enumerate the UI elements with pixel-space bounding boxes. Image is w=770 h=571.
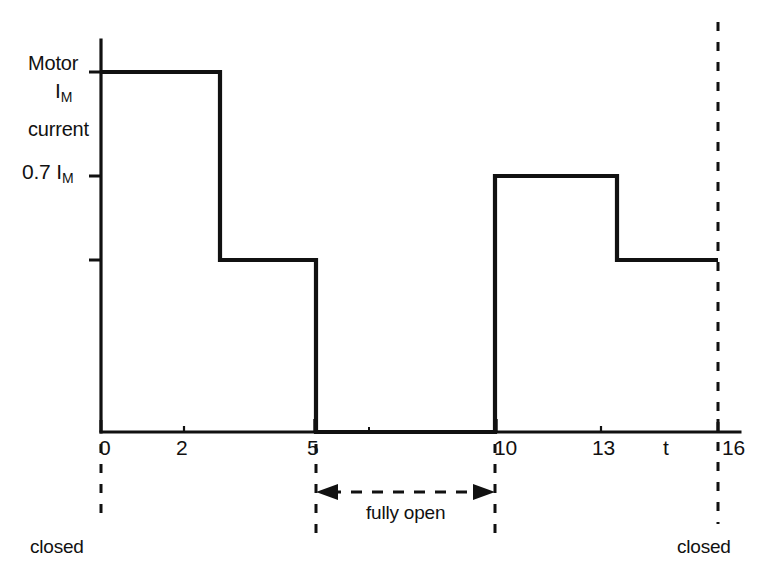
- y-tick-label-07im: 0.7 IM: [22, 160, 74, 186]
- motor-current-waveform: [101, 72, 718, 432]
- annotation-fully-open: fully open: [366, 502, 445, 524]
- y-axis-title-line2: current: [28, 118, 89, 140]
- annotation-closed-left: closed: [30, 536, 84, 558]
- x-axis-label: t: [663, 436, 669, 460]
- y-tick-label-07im-subscript: M: [62, 170, 74, 186]
- x-tick-label-16: 16: [722, 436, 745, 460]
- y-tick-label-im: IM: [55, 79, 72, 105]
- y-axis-ticks: [89, 72, 101, 260]
- y-tick-label-im-subscript: M: [61, 89, 73, 105]
- x-tick-label-2: 2: [176, 436, 187, 460]
- span-arrow-head-right: [473, 484, 495, 500]
- motor-current-chart: Motor current IM 0.7 IM 0 2 5 10 13 t 16…: [0, 0, 770, 571]
- fully-open-span-arrow: [316, 484, 495, 500]
- x-tick-label-5: 5: [307, 436, 318, 460]
- waveform-trace: [101, 72, 718, 432]
- y-tick-label-07im-main: 0.7 I: [22, 160, 62, 183]
- x-tick-label-0: 0: [99, 436, 110, 460]
- state-dashed-lines: [101, 22, 718, 540]
- chart-svg: [0, 0, 770, 571]
- x-tick-label-10: 10: [494, 436, 517, 460]
- y-axis-title-line1: Motor: [28, 52, 89, 74]
- annotation-closed-right: closed: [677, 536, 731, 558]
- axis-lines: [101, 40, 740, 432]
- x-tick-label-13: 13: [592, 436, 615, 460]
- span-arrow-head-left: [316, 484, 338, 500]
